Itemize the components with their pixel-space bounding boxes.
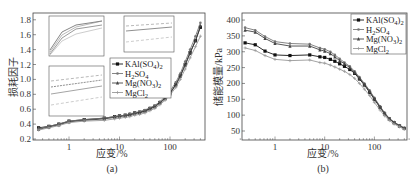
y-tick-label: 1.8 [20,15,32,25]
y-tick-label: 0.6 [20,104,32,114]
y-tick-label: 0.4 [20,119,32,129]
x-tick-label: 100 [368,142,382,152]
y-axis-a: 0.20.40.60.81.01.21.41.61.8 [20,15,36,144]
y-tick-label: 50 [231,126,241,136]
y-tick-label: 1.0 [20,74,32,84]
inset-bottom-left [49,66,104,116]
x-tick-label: 1 [273,142,278,152]
x-axis-label-a: 应变/% [96,147,127,159]
svg-text:MgCl2: MgCl2 [366,44,389,55]
y-tick-label: 200 [227,78,241,88]
x-axis-label-b: 应变/% [307,147,338,159]
legend-a: KAl(SO4)2H2SO4Mg(NO3)2MgCl2 [110,58,171,99]
y-axis-label-b: 储能模量/kPa [212,48,224,106]
x-tick-label: 100 [163,142,177,152]
y-tick-label: 1.6 [20,30,32,40]
y-tick-label: 350 [227,31,241,41]
legend-b: KAl(SO4)2H2SO4Mg(NO3)2MgCl2 [351,14,406,55]
y-tick-label: 1.2 [20,60,31,70]
y-axis-label-a: 损耗因子 [7,57,19,97]
chart-b-storage-modulus: 50100150200250300350400 110100 KAl(SO4)2… [212,13,409,175]
x-tick-label: 1 [67,142,72,152]
chart-a-loss-factor: 0.20.40.60.81.01.21.41.61.8 110100 [7,13,205,175]
y-tick-label: 400 [227,15,241,25]
caption-b: (b) [317,163,329,175]
y-tick-label: 0.8 [20,89,32,99]
y-tick-label: 250 [227,63,241,73]
inset-top-right [124,16,174,52]
y-tick-label: 1.4 [20,45,32,55]
y-tick-label: 0.2 [20,134,31,144]
y-tick-label: 300 [227,47,241,57]
series-line [243,41,405,130]
figure: 0.20.40.60.81.01.21.41.61.8 110100 [0,0,413,182]
inset-top-left [49,16,104,56]
svg-text:MgCl2: MgCl2 [125,88,148,99]
y-tick-label: 150 [227,94,241,104]
caption-a: (a) [106,163,117,175]
y-tick-label: 100 [227,110,241,120]
